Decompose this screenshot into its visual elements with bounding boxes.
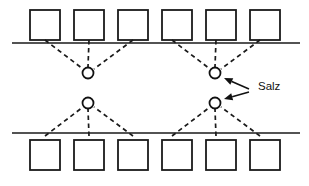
bond-line-upper-1 bbox=[88, 40, 89, 67]
diagram-canvas: Salz bbox=[0, 0, 309, 186]
arrow-to-upper-ion-shaft bbox=[232, 81, 249, 89]
ion-lower-right bbox=[210, 98, 221, 109]
bond-line-lower-1 bbox=[88, 109, 89, 136]
unit-square-lower-4 bbox=[206, 140, 236, 170]
bond-line-lower-0 bbox=[45, 107, 83, 136]
ion-upper-right bbox=[210, 68, 221, 79]
unit-square-lower-0 bbox=[30, 140, 60, 170]
unit-square-upper-4 bbox=[206, 10, 236, 40]
unit-square-upper-0 bbox=[30, 10, 60, 40]
unit-square-lower-5 bbox=[250, 140, 280, 170]
bond-line-upper-3 bbox=[172, 40, 210, 69]
bond-line-lower-4 bbox=[215, 109, 216, 136]
unit-square-upper-2 bbox=[118, 10, 148, 40]
bond-line-lower-5 bbox=[221, 107, 260, 136]
bond-line-lower-3 bbox=[172, 107, 210, 136]
upper-square-row bbox=[30, 10, 280, 40]
lower-square-row bbox=[30, 140, 280, 170]
bond-line-upper-4 bbox=[215, 40, 216, 67]
unit-square-upper-1 bbox=[74, 10, 104, 40]
salt-interface-diagram: Salz bbox=[0, 0, 309, 186]
bond-lines bbox=[45, 40, 260, 136]
arrow-to-lower-ion-shaft bbox=[232, 92, 249, 97]
bond-line-lower-2 bbox=[94, 107, 133, 136]
bond-line-upper-0 bbox=[45, 40, 83, 69]
ion-lower-left bbox=[83, 98, 94, 109]
unit-square-upper-3 bbox=[162, 10, 192, 40]
interface-lines bbox=[12, 43, 300, 133]
unit-square-lower-3 bbox=[162, 140, 192, 170]
callout-labels: Salz bbox=[258, 80, 281, 92]
ion-circles bbox=[83, 68, 221, 109]
ion-upper-left bbox=[83, 68, 94, 79]
arrow-to-lower-ion-head bbox=[224, 93, 233, 100]
pointer-arrows bbox=[224, 78, 249, 100]
unit-square-lower-2 bbox=[118, 140, 148, 170]
unit-square-upper-5 bbox=[250, 10, 280, 40]
salz-label: Salz bbox=[258, 80, 281, 92]
bond-line-upper-5 bbox=[221, 40, 260, 69]
bond-line-upper-2 bbox=[94, 40, 133, 69]
unit-square-lower-1 bbox=[74, 140, 104, 170]
